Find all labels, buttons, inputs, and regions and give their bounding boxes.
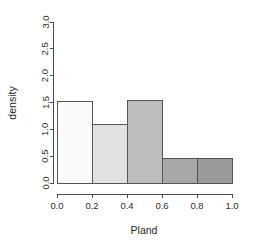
y-tick-label: 2.5 <box>40 42 51 55</box>
x-tick-label: 0.0 <box>50 200 63 211</box>
histogram-bar <box>57 101 92 183</box>
histogram-bar <box>92 125 127 183</box>
y-tick-label: 0.5 <box>40 150 51 163</box>
x-tick-label: 0.4 <box>120 200 133 211</box>
x-tick-label: 0.8 <box>190 200 203 211</box>
histogram-bars <box>57 101 232 183</box>
histogram-bar <box>197 159 232 183</box>
y-tick-label: 0.0 <box>40 176 51 189</box>
x-tick-label: 1.0 <box>225 200 238 211</box>
y-tick-label: 1.5 <box>40 96 51 109</box>
histogram-bar <box>162 159 197 183</box>
x-axis-ticks: 0.00.20.40.60.81.0 <box>50 194 238 211</box>
x-axis-label: Pland <box>131 224 158 236</box>
y-axis-ticks: 0.00.51.01.52.02.53.0 <box>40 15 54 189</box>
histogram-plot: 0.00.51.01.52.02.53.0 0.00.20.40.60.81.0… <box>0 0 262 243</box>
x-tick-label: 0.2 <box>85 200 98 211</box>
x-tick-label: 0.6 <box>155 200 168 211</box>
y-axis-label: density <box>6 86 18 120</box>
chart-canvas: 0.00.51.01.52.02.53.0 0.00.20.40.60.81.0… <box>0 0 262 243</box>
y-tick-label: 3.0 <box>40 15 51 28</box>
y-tick-label: 1.0 <box>40 123 51 136</box>
y-tick-label: 2.0 <box>40 69 51 82</box>
histogram-bar <box>127 101 162 183</box>
